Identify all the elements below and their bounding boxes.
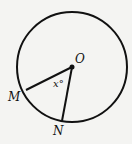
circle-diagram: O M N x°: [0, 0, 132, 144]
center-point: [70, 65, 75, 70]
radius-om: [26, 67, 72, 90]
label-n: N: [52, 124, 64, 138]
radius-on: [62, 67, 72, 121]
label-m: M: [7, 90, 21, 104]
label-o: O: [75, 52, 85, 66]
label-angle: x°: [53, 78, 64, 89]
